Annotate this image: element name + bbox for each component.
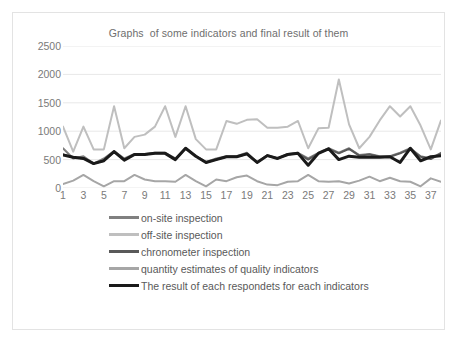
x-axis-tick-label: 29 — [343, 189, 355, 201]
legend-item-label: The result of each respondets for each i… — [141, 280, 369, 292]
y-axis-tick-label: 1500 — [38, 97, 61, 109]
legend-item-label: on-site inspection — [141, 212, 223, 224]
legend-item[interactable]: The result of each respondets for each i… — [109, 277, 439, 294]
x-axis-tick-label: 11 — [160, 189, 171, 201]
legend-color-swatch — [109, 267, 139, 270]
legend-item[interactable]: quantity estimates of quality indicators — [109, 260, 439, 277]
series-line-1 — [63, 80, 441, 152]
chart-legend: on-site inspectionoff-site inspectionchr… — [109, 209, 439, 294]
x-axis-tick-label: 31 — [364, 189, 376, 201]
chart-frame: Graphs of some indicators and final resu… — [12, 12, 445, 330]
legend-item[interactable]: off-site inspection — [109, 226, 439, 243]
y-axis: 05001000150020002500 — [17, 41, 61, 187]
x-axis: 135791113151719212325272931333537 — [63, 189, 441, 207]
x-axis-tick-label: 19 — [241, 189, 253, 201]
legend-item-label: off-site inspection — [141, 229, 223, 241]
chart-canvas — [63, 46, 441, 188]
series-line-4 — [63, 148, 441, 165]
x-axis-tick-label: 13 — [180, 189, 192, 201]
x-axis-tick-label: 21 — [261, 189, 273, 201]
legend-item[interactable]: chronometer inspection — [109, 243, 439, 260]
x-axis-tick-label: 23 — [282, 189, 294, 201]
y-axis-tick-label: 500 — [43, 154, 61, 166]
legend-color-swatch — [109, 284, 139, 288]
legend-item-label: chronometer inspection — [141, 246, 250, 258]
x-axis-tick-label: 9 — [142, 189, 148, 201]
y-axis-tick-label: 1000 — [38, 125, 61, 137]
x-axis-tick-label: 27 — [323, 189, 335, 201]
x-axis-tick-label: 7 — [121, 189, 127, 201]
legend-color-swatch — [109, 250, 139, 253]
legend-item-label: quantity estimates of quality indicators — [141, 263, 318, 275]
y-axis-tick-label: 2500 — [38, 40, 61, 52]
x-axis-tick-label: 35 — [405, 189, 417, 201]
x-axis-tick-label: 33 — [384, 189, 396, 201]
x-axis-tick-label: 37 — [425, 189, 437, 201]
legend-color-swatch — [109, 233, 139, 236]
x-axis-tick-label: 1 — [60, 189, 66, 201]
x-axis-tick-label: 3 — [81, 189, 87, 201]
legend-color-swatch — [109, 216, 139, 219]
legend-item[interactable]: on-site inspection — [109, 209, 439, 226]
series-line-3 — [63, 175, 441, 186]
x-axis-tick-label: 5 — [101, 189, 107, 201]
x-axis-tick-label: 25 — [302, 189, 314, 201]
x-axis-tick-label: 17 — [221, 189, 233, 201]
y-axis-tick-label: 2000 — [38, 68, 61, 80]
x-axis-tick-label: 15 — [200, 189, 212, 201]
